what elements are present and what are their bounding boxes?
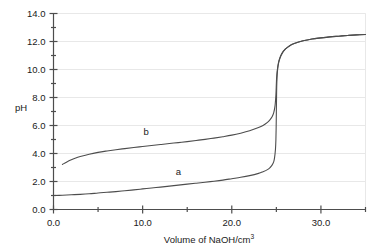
x-tick-label: 20.0 [223, 217, 242, 228]
x-axis-title-superscript: 3 [250, 233, 254, 240]
curve-label-a: a [176, 166, 182, 177]
y-tick-label: 2.0 [32, 176, 45, 187]
y-tick-label: 4.0 [32, 148, 45, 159]
y-tick-label: 12.0 [27, 36, 46, 47]
y-tick-label: 10.0 [27, 64, 46, 75]
x-axis-title-text: Volume of NaOH/cm [164, 234, 251, 245]
curve-label-b: b [144, 126, 149, 137]
y-tick-label: 8.0 [32, 92, 45, 103]
y-tick-label: 14.0 [27, 8, 46, 19]
x-tick-label: 30.0 [312, 217, 331, 228]
x-tick-label: 0.0 [47, 217, 60, 228]
titration-chart: 0.010.020.030.0 0.02.04.06.08.010.012.01… [0, 0, 373, 252]
chart-canvas: 0.010.020.030.0 0.02.04.06.08.010.012.01… [0, 0, 373, 252]
y-axis-title: pH [15, 102, 27, 113]
x-axis-title: Volume of NaOH/cm3 [164, 233, 255, 245]
x-tick-label: 10.0 [133, 217, 152, 228]
y-tick-label: 6.0 [32, 120, 45, 131]
y-tick-label: 0.0 [32, 204, 45, 215]
